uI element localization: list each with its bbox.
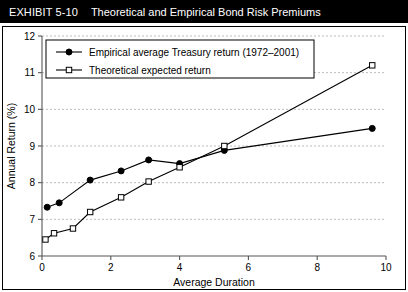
- exhibit-number: EXHIBIT 5-10: [9, 6, 78, 18]
- chart-frame: [2, 26, 406, 290]
- exhibit-title: Theoretical and Empirical Bond Risk Prem…: [91, 6, 321, 18]
- exhibit-title-bar: EXHIBIT 5-10 Theoretical and Empirical B…: [0, 0, 408, 23]
- exhibit-figure: EXHIBIT 5-10 Theoretical and Empirical B…: [0, 0, 408, 292]
